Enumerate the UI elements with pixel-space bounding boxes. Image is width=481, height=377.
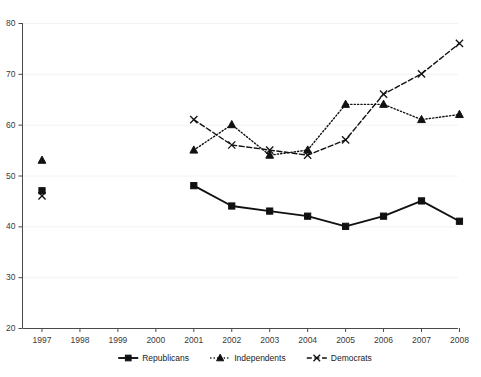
chart-canvas: 20304050607080 1997199819992000200120022… [0, 0, 481, 377]
gridlines [23, 24, 459, 278]
x-tick-label: 2006 [374, 335, 393, 345]
x-tick-label: 2005 [336, 335, 355, 345]
data-series-layer [38, 40, 463, 230]
x-tick-label: 2007 [412, 335, 431, 345]
series-independents [38, 100, 463, 163]
data-point-marker [342, 136, 349, 143]
data-point-marker [418, 198, 424, 204]
data-point-marker [190, 116, 197, 123]
data-point-marker [229, 203, 235, 209]
y-tick-label: 30 [6, 272, 16, 282]
y-tick-label: 80 [6, 18, 16, 28]
x-tick-label: 1999 [108, 335, 127, 345]
x-tick-label: 2001 [184, 335, 203, 345]
y-tick-label: 70 [6, 69, 16, 79]
data-point-marker [38, 156, 46, 163]
series-republicans [39, 183, 463, 230]
y-tick-label: 20 [6, 323, 16, 333]
data-point-marker [418, 70, 425, 77]
data-point-marker [343, 223, 349, 229]
legend-item-independents[interactable]: Independents [210, 353, 286, 363]
data-point-marker [456, 110, 464, 117]
legend-label: Democrats [331, 353, 372, 363]
data-point-marker [305, 213, 311, 219]
x-axis-ticks: 1997199819992000200120022003200420052006… [33, 328, 470, 345]
legend-swatch-marker [125, 355, 131, 361]
data-point-marker [380, 213, 386, 219]
data-point-marker [380, 91, 387, 98]
legend-label: Republicans [142, 353, 189, 363]
data-point-marker [456, 40, 463, 47]
data-point-marker [380, 100, 388, 107]
x-tick-label: 2008 [450, 335, 469, 345]
legend-item-democrats[interactable]: Democrats [307, 353, 372, 363]
legend-item-republicans[interactable]: Republicans [118, 353, 189, 363]
data-point-marker [228, 120, 236, 127]
series-line [194, 43, 460, 155]
y-tick-label: 50 [6, 171, 16, 181]
y-tick-label: 40 [6, 221, 16, 231]
x-tick-label: 2003 [260, 335, 279, 345]
data-point-marker [267, 208, 273, 214]
x-tick-label: 2004 [298, 335, 317, 345]
chart-legend: RepublicansIndependentsDemocrats [118, 353, 372, 363]
series-democrats [38, 40, 463, 200]
data-point-marker [190, 146, 198, 153]
y-tick-label: 60 [6, 120, 16, 130]
legend-label: Independents [234, 353, 286, 363]
y-axis-ticks: 20304050607080 [6, 18, 22, 333]
x-tick-label: 1998 [70, 335, 89, 345]
data-point-marker [191, 183, 197, 189]
x-tick-label: 1997 [33, 335, 52, 345]
x-tick-label: 2000 [146, 335, 165, 345]
line-chart: 20304050607080 1997199819992000200120022… [0, 0, 481, 377]
x-tick-label: 2002 [222, 335, 241, 345]
data-point-marker [456, 218, 462, 224]
